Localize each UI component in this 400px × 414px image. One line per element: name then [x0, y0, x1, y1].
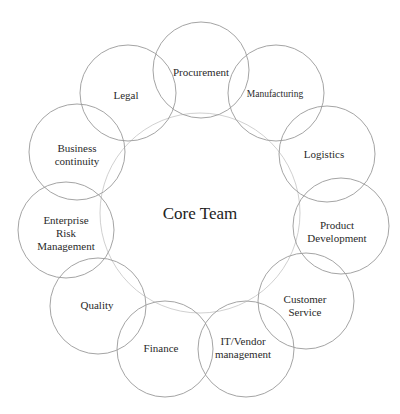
- node-label-logistics: Logistics: [304, 148, 344, 161]
- node-label-procurement: Procurement: [173, 66, 229, 79]
- node-label-legal: Legal: [113, 89, 138, 102]
- node-label-business-continuity: Business continuity: [55, 142, 100, 168]
- node-label-quality: Quality: [81, 299, 114, 312]
- node-label-manufacturing: Manufacturing: [247, 88, 303, 101]
- core-team-label: Core Team: [163, 204, 238, 224]
- node-label-finance: Finance: [144, 342, 179, 355]
- node-label-product-development: Product Development: [307, 219, 366, 245]
- node-label-it-vendor-management: IT/Vendor management: [215, 335, 271, 361]
- node-label-enterprise-risk-management: Enterprise Risk Management: [37, 214, 94, 253]
- node-label-customer-service: Customer Service: [284, 293, 327, 319]
